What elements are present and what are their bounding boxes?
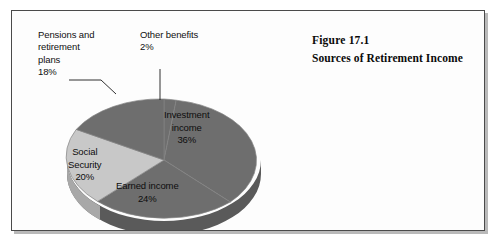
label-pensions-line-3: plans (38, 54, 94, 66)
label-pensions-line-1: Pensions and (38, 29, 94, 41)
label-social-security: Social Security 20% (68, 146, 102, 184)
label-other-line-1: Other benefits (140, 29, 198, 41)
label-investment-line-2: income (164, 122, 209, 135)
label-social-value: 20% (68, 171, 102, 184)
figure-title: Sources of Retirement Income (312, 51, 477, 66)
figure-caption: Figure 17.1 Sources of Retirement Income (312, 33, 477, 65)
label-investment-value: 36% (164, 134, 209, 147)
label-investment-line-1: Investment (164, 109, 209, 122)
figure-box: Pensions and retirement plans 18% Other … (11, 10, 485, 231)
pie-chart: Pensions and retirement plans 18% Other … (12, 11, 274, 230)
figure-number: Figure 17.1 (312, 33, 477, 48)
leader-line-pensions (69, 80, 116, 94)
label-earned-income: Earned income 24% (116, 180, 179, 205)
label-pensions-line-2: retirement (38, 41, 94, 53)
label-other-value: 2% (140, 41, 198, 53)
label-earned-value: 24% (116, 193, 179, 206)
label-social-line-1: Social (68, 146, 102, 159)
label-investment-income: Investment income 36% (164, 109, 209, 147)
label-pensions-retirement-plans: Pensions and retirement plans 18% (38, 29, 94, 79)
label-pensions-value: 18% (38, 66, 94, 78)
label-other-benefits: Other benefits 2% (140, 29, 198, 54)
label-social-line-2: Security (68, 159, 102, 172)
label-earned-line-1: Earned income (116, 180, 179, 193)
